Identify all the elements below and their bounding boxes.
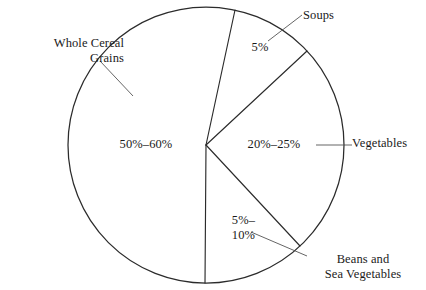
slice-value-vegetables: 20%–25% xyxy=(230,137,318,152)
slice-label-vegetables: Vegetables xyxy=(352,136,407,151)
slice-value-beans-sea-vegetables-line2: 10% xyxy=(193,228,255,243)
slice-label-whole-cereal-grains: Whole Cereal Grains xyxy=(4,36,124,66)
slice-divider-grains-soups xyxy=(206,10,235,145)
slice-label-whole-cereal-grains-line2: Grains xyxy=(4,51,124,66)
slice-value-beans-sea-vegetables: 5%– 10% xyxy=(193,213,255,243)
pie-chart-figure: Whole Cereal Grains Soups Vegetables Bea… xyxy=(0,0,426,290)
slice-value-beans-sea-vegetables-line1: 5%– xyxy=(193,213,255,228)
slice-value-whole-cereal-grains: 50%–60% xyxy=(93,137,199,152)
slice-label-beans-sea-vegetables: Beans and Sea Vegetables xyxy=(302,252,424,282)
slice-label-whole-cereal-grains-line1: Whole Cereal xyxy=(4,36,124,51)
slice-divider-soups-vegetables xyxy=(206,51,307,145)
slice-label-soups: Soups xyxy=(303,8,334,23)
leader-line-whole-cereal-grains xyxy=(100,61,133,96)
slice-value-soups: 5% xyxy=(243,40,277,55)
leader-line-soups xyxy=(268,15,302,41)
slice-label-beans-sea-vegetables-line2: Sea Vegetables xyxy=(302,267,424,282)
slice-label-beans-sea-vegetables-line1: Beans and xyxy=(302,252,424,267)
